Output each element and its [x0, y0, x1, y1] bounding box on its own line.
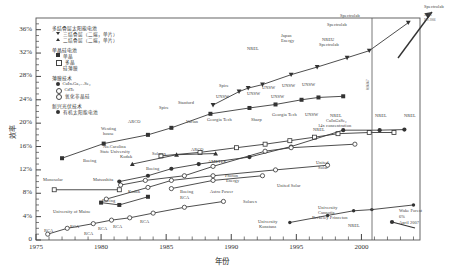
point-label-spire-1: Spire: [159, 106, 169, 111]
y-tick-label: 24%: [19, 96, 32, 103]
legend-item-label: 有机太阳能电池: [63, 109, 98, 115]
point-label-rca-5: RCA: [113, 225, 122, 230]
point-label-unsw-3: UNSW: [262, 86, 275, 91]
point-label-united-2: Solar: [318, 166, 328, 171]
legend-item-label: 三结叠层（二端，单片）: [63, 31, 118, 37]
point-label-nrel-1: NREL: [247, 47, 259, 52]
legend-marker-icon: [56, 53, 60, 57]
legend-item-0-1[interactable]: 二结叠层（二端，单片）: [56, 37, 136, 43]
point-label-sharp: Sharp: [251, 118, 262, 123]
legend-marker-icon: [56, 32, 60, 35]
y-tick-label: 20%: [19, 119, 32, 126]
point-label-kodak-2: Kodak: [128, 190, 140, 195]
legend-item-label: 硅薄膜: [63, 65, 78, 71]
point-label-westinghouse2: house: [103, 132, 114, 137]
point-label-unsw-7: UNSW: [305, 113, 318, 118]
point-label-japan-energy2: Energy: [281, 39, 294, 44]
legend-item-label: 多晶: [65, 59, 75, 65]
point-label-ukonstanz-2: Konstanz: [259, 225, 276, 230]
vertical-right-annotation: 0286867: [367, 80, 370, 91]
point-label-rca-4: RCA: [98, 227, 107, 232]
point-label-boeing-2: Boeing: [146, 167, 159, 172]
y-tick-label: 8%: [23, 189, 32, 196]
point-label-photon-2: Energy: [226, 179, 239, 184]
point-label-spectrolab-1: Spectrolab: [319, 43, 339, 48]
x-tick-label: 1975: [29, 244, 43, 251]
legend-marker-icon: [56, 66, 60, 70]
point-label-arco-1: ARCO: [128, 120, 141, 125]
point-label-rca-1: RCA: [44, 229, 53, 234]
legend-item-label: CdTe: [65, 87, 75, 92]
point-label-arco-2: ARCO: [191, 148, 204, 153]
point-label-spectrolab-4: Spectrolab: [424, 5, 444, 10]
point-label-unsw-5: UNSW: [302, 83, 315, 88]
y-axis-title: 效率: [10, 125, 17, 139]
point-label-spectrolab-3: Spectrolab: [340, 14, 360, 19]
legend-item-label: CuInₓGa₁₋ₓSe₂: [63, 81, 91, 86]
spectrolab-note-2: Dec 2006: [424, 19, 436, 22]
point-label-solarex-2: Solarex: [243, 200, 257, 205]
point-label-boeing-1: Boeing: [83, 159, 96, 164]
chart-legend: 多结叠层太阳能电池三结叠层（二端，单片）二结叠层（二端，单片）单晶硅电池单晶多晶…: [52, 24, 136, 115]
point-label-stanford: Stanford: [178, 101, 194, 106]
point-label-boeing-4: Boeing: [102, 199, 115, 204]
legend-marker-icon: [56, 94, 62, 100]
point-label-rca-2: RCA: [70, 225, 79, 230]
point-label-ucal-3: Berkeley Princeton: [312, 216, 348, 221]
legend-item-2-2[interactable]: 氧化非晶硅: [56, 93, 136, 99]
legend-item-1-2[interactable]: 硅薄膜: [56, 65, 136, 71]
point-label-unsw-2: UNSW: [247, 92, 260, 97]
point-label-astro: Astro Power: [210, 190, 233, 195]
legend-heading-3: 新兴光伏技术: [52, 102, 136, 109]
point-label-varian: Varian: [186, 120, 198, 125]
y-tick-label: 12%: [19, 166, 32, 173]
x-tick-label: 1985: [159, 244, 173, 251]
y-tick-label: 16%: [19, 143, 32, 150]
point-label-unsw-6: UNSW: [271, 95, 284, 100]
legend-marker-icon: [56, 88, 62, 94]
point-label-spire-2: Spire: [219, 84, 229, 89]
point-label-united-3: United Solar: [277, 184, 301, 189]
legend-marker-icon: [56, 60, 62, 66]
point-label-nrel-org: NREL: [348, 224, 360, 229]
point-label-nrel-3: NREL: [404, 114, 416, 119]
point-label-uofmaine: University of Maine: [53, 210, 91, 215]
y-tick-label: 36%: [19, 26, 32, 33]
wake-forest-line-1: Wake Forest: [399, 209, 422, 214]
point-label-rca-3: RCA: [84, 232, 93, 237]
point-label-georgia-2: Georgia Tech: [272, 113, 297, 118]
y-tick-label: 28%: [19, 72, 32, 79]
point-label-unsw-1: UNSW: [216, 95, 229, 100]
legend-item-label: 氧化非晶硅: [65, 93, 90, 99]
point-label-georgia-1: Georgia Tech: [207, 118, 232, 123]
point-label-rca-6: RCA: [140, 220, 149, 225]
x-tick-label: 1995: [289, 244, 303, 251]
legend-marker-icon: [56, 82, 60, 86]
point-label-unsw-4: UNSW: [282, 84, 295, 89]
legend-item-label: 二结叠层（二端，单片）: [63, 37, 118, 43]
x-tick-label: 1980: [94, 244, 108, 251]
spectrolab-note-1: 36.9%: [424, 14, 432, 17]
point-label-matsu-1: Monosolar: [43, 178, 63, 183]
y-tick-label: 4%: [23, 213, 32, 220]
x-axis-title: 年份: [215, 258, 229, 266]
legend-heading-1: 单晶硅电池: [52, 46, 136, 53]
wake-forest-line-3: April 2007: [399, 221, 419, 226]
point-label-kodak-1: Kodak: [120, 155, 132, 160]
legend-heading-2: 薄膜技术: [52, 74, 136, 81]
x-tick-label: 1990: [224, 244, 238, 251]
x-tick-label: 2000: [354, 244, 368, 251]
point-label-nrel-4: NREL: [313, 128, 325, 133]
point-label-boeing-3: Boeing: [180, 190, 193, 195]
legend-item-label: 单晶: [63, 53, 73, 59]
legend-item-3-0[interactable]: 有机太阳能电池: [56, 109, 136, 115]
wake-forest-line-2: 6%: [399, 215, 405, 220]
legend-marker-icon: [56, 38, 60, 41]
point-label-nrel-2: NREL: [375, 114, 387, 119]
legend-heading-0: 多结叠层太阳能电池: [52, 24, 136, 31]
point-label-ametek: AMETEK: [208, 160, 227, 165]
legend-marker-icon: [56, 110, 60, 114]
y-tick-label: 32%: [19, 49, 32, 56]
point-label-spectrolab-2: Spectrolab: [327, 23, 347, 28]
point-label-matsu-2: Matsushita: [93, 178, 113, 183]
